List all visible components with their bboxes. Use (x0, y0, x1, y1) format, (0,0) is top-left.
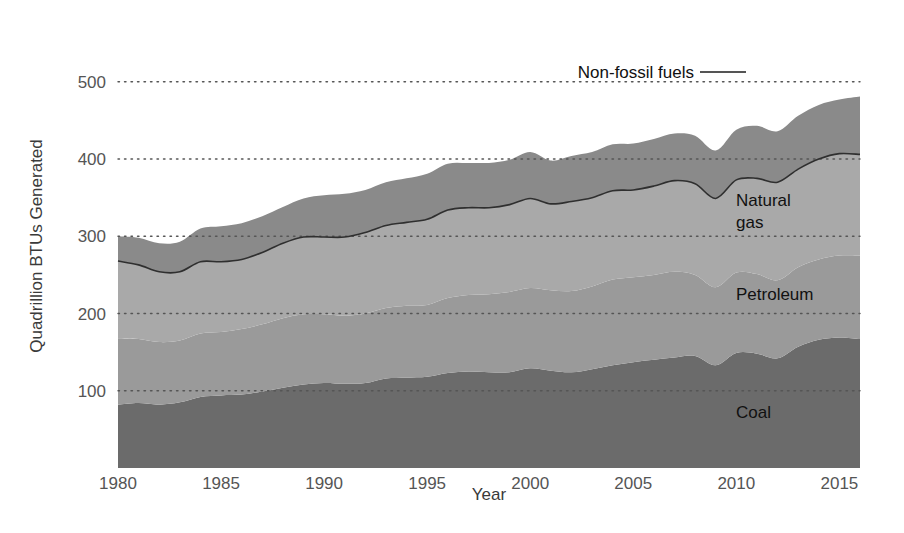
x-tick-label-2000: 2000 (511, 474, 549, 493)
y-axis-title: Quadrillion BTUs Generated (27, 139, 46, 353)
y-tick-label-500: 500 (78, 73, 106, 92)
label-petroleum: Petroleum (736, 285, 813, 304)
x-tick-label-1990: 1990 (305, 474, 343, 493)
x-tick-label-2015: 2015 (820, 474, 858, 493)
label-natural-gas-line2: gas (736, 213, 763, 232)
x-tick-label-1995: 1995 (408, 474, 446, 493)
stacked-area-chart: 100200300400500 198019851990199520002005… (0, 0, 904, 533)
x-tick-label-1980: 1980 (99, 474, 137, 493)
x-axis-title: Year (472, 485, 507, 504)
y-tick-labels-group: 100200300400500 (78, 73, 106, 401)
label-natural-gas-line1: Natural (736, 191, 791, 210)
y-tick-label-100: 100 (78, 382, 106, 401)
y-tick-label-400: 400 (78, 150, 106, 169)
y-tick-label-300: 300 (78, 227, 106, 246)
chart-figure: 100200300400500 198019851990199520002005… (0, 0, 904, 533)
x-tick-label-2010: 2010 (717, 474, 755, 493)
label-coal: Coal (736, 403, 771, 422)
label-non-fossil-fuels: Non-fossil fuels (578, 63, 694, 82)
x-tick-label-1985: 1985 (202, 474, 240, 493)
y-tick-label-200: 200 (78, 305, 106, 324)
x-tick-label-2005: 2005 (614, 474, 652, 493)
